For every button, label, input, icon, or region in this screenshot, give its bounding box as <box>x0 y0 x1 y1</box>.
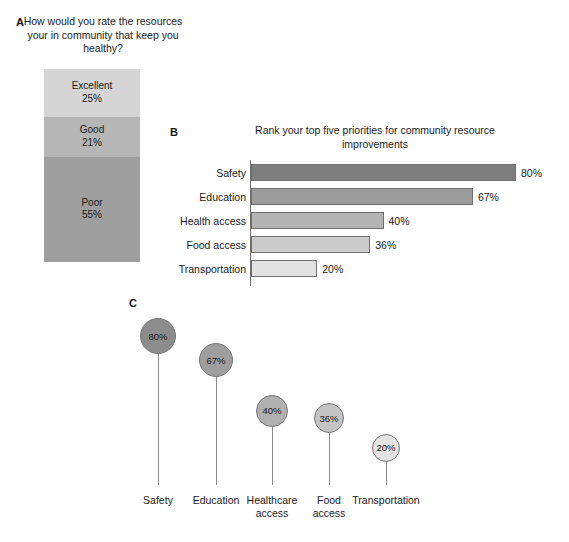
panel-b-horizontal-bar-chart: Safety80%Education67%Health access40%Foo… <box>160 160 560 288</box>
bar-value-label: 36% <box>375 239 396 251</box>
lollipop-stem <box>158 336 159 485</box>
lollipop-circle: 67% <box>199 343 233 377</box>
stacked-segment-poor: Poor55% <box>44 157 140 262</box>
panel-b-title: Rank your top five priorities for commun… <box>245 124 505 151</box>
segment-value: 21% <box>82 137 102 150</box>
bar-value-label: 20% <box>322 263 343 275</box>
panel-a-stacked-bar-chart: Excellent25%Good21%Poor55% <box>44 69 140 260</box>
stacked-segment-excellent: Excellent25% <box>44 69 140 117</box>
axis-label-line-2: access <box>284 507 374 520</box>
bar-row-safety: Safety80% <box>160 164 560 181</box>
bar-rect <box>251 164 516 181</box>
lollipop-stem <box>216 360 217 485</box>
bar-value-label: 80% <box>521 167 542 179</box>
lollipop-circle: 36% <box>314 403 344 433</box>
segment-value: 25% <box>82 93 102 106</box>
bar-row-health-access: Health access40% <box>160 212 560 229</box>
bar-category-label: Food access <box>186 239 246 251</box>
bar-row-education: Education67% <box>160 188 560 205</box>
bar-category-label: Safety <box>216 167 246 179</box>
segment-label: Good <box>80 124 104 137</box>
bar-value-label: 67% <box>478 191 499 203</box>
lollipop-axis-label: Transportation <box>341 494 431 507</box>
segment-label: Poor <box>81 197 102 210</box>
bar-category-label: Education <box>199 191 246 203</box>
segment-label: Excellent <box>72 80 113 93</box>
figure-canvas: A How would you rate the resources your … <box>0 0 569 542</box>
bar-category-label: Transportation <box>179 263 246 275</box>
lollipop-circle: 40% <box>256 395 288 427</box>
bar-row-transportation: Transportation20% <box>160 260 560 277</box>
bar-row-food-access: Food access36% <box>160 236 560 253</box>
stacked-segment-good: Good21% <box>44 117 140 157</box>
bar-rect <box>251 260 317 277</box>
axis-label-line-1: Transportation <box>341 494 431 507</box>
bar-value-label: 40% <box>389 215 410 227</box>
bar-rect <box>251 212 384 229</box>
bar-rect <box>251 188 473 205</box>
bar-rect <box>251 236 370 253</box>
panel-b-letter: B <box>170 126 178 138</box>
lollipop-circle: 20% <box>372 434 400 462</box>
lollipop-circle: 80% <box>140 318 176 354</box>
panel-a-title: How would you rate the resources your in… <box>14 15 192 56</box>
panel-c-lollipop-chart: 80%Safety67%Education40%Healthcareaccess… <box>0 290 569 542</box>
bar-category-label: Health access <box>180 215 246 227</box>
segment-value: 55% <box>82 209 102 222</box>
